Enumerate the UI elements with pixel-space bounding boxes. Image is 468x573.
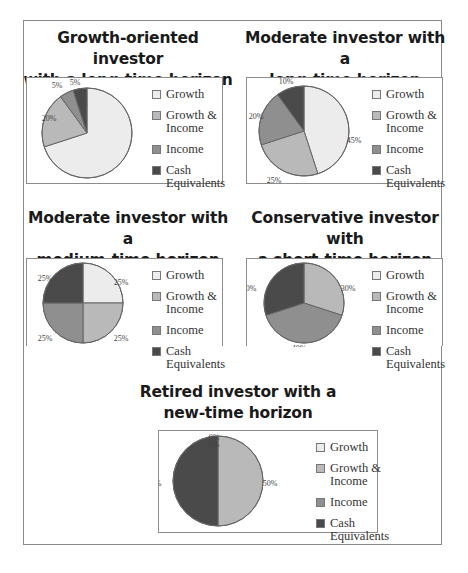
title-line-1: Retired investor with a: [133, 382, 343, 403]
legend-label: Growth: [166, 269, 225, 282]
legend-swatch: [152, 90, 161, 99]
legend-label: Equivalents: [330, 530, 389, 543]
title-line-1: Moderate investor with a: [240, 28, 450, 70]
legend-swatch: [372, 166, 381, 175]
legend-label: Equivalents: [386, 358, 445, 371]
legend-income: Income: [372, 324, 445, 337]
legend-growth: Growth: [372, 269, 445, 282]
legend-label: Income: [166, 143, 225, 156]
legend-label: Income: [386, 303, 445, 316]
legend-label: Income: [330, 475, 389, 488]
pie-chart-retired: 0%50%0%50% GrowthGrowth &IncomeIncomeCas…: [158, 430, 378, 533]
legend-swatch: [316, 464, 325, 473]
pie-label: 25%: [114, 334, 129, 343]
legend-label: Income: [386, 324, 445, 337]
chart-legend: GrowthGrowth &IncomeIncomeCashEquivalent…: [316, 441, 389, 551]
pie-slice-growth-income: [218, 436, 263, 526]
pie-label: 30%: [247, 284, 257, 293]
pie-label: 25%: [38, 274, 53, 283]
pie-slice-cash-equivalents: [43, 263, 83, 303]
legend-swatch: [152, 326, 161, 335]
legend-label: Income: [386, 143, 445, 156]
legend-swatch: [152, 292, 161, 301]
legend-label: Growth: [386, 269, 445, 282]
legend-growth-income: Growth &Income: [372, 290, 445, 316]
legend-label: Growth: [166, 88, 225, 101]
pie-label: 5%: [52, 81, 63, 90]
legend-label: Income: [166, 324, 225, 337]
legend-growth: Growth: [316, 441, 389, 454]
legend-swatch: [372, 326, 381, 335]
pie-label: 45%: [347, 136, 362, 145]
title-line-1: Conservative investor with: [240, 208, 450, 250]
pie-chart-moderate-long: 45%25%20%10% GrowthGrowth &IncomeIncomeC…: [246, 77, 443, 184]
pie-label: 50%: [263, 479, 278, 488]
legend-swatch: [152, 145, 161, 154]
legend-cash: CashEquivalents: [152, 164, 225, 190]
title-line-1: Growth-oriented investor: [23, 28, 233, 70]
chart-legend: GrowthGrowth &IncomeIncomeCashEquivalent…: [152, 88, 225, 198]
chart-legend: GrowthGrowth &IncomeIncomeCashEquivalent…: [372, 88, 445, 198]
pie-label: 25%: [38, 334, 53, 343]
legend-swatch: [372, 145, 381, 154]
legend-cash: CashEquivalents: [372, 345, 445, 371]
legend-cash: CashEquivalents: [372, 164, 445, 190]
legend-label: Income: [386, 122, 445, 135]
legend-swatch: [316, 443, 325, 452]
legend-label: Equivalents: [166, 177, 225, 190]
legend-swatch: [152, 271, 161, 280]
legend-swatch: [372, 292, 381, 301]
legend-swatch: [372, 111, 381, 120]
legend-growth: Growth: [152, 88, 225, 101]
pie-label: 0%: [294, 259, 305, 260]
legend-swatch: [372, 90, 381, 99]
pie-label: 20%: [249, 112, 264, 121]
pie-label: 50%: [159, 479, 162, 488]
legend-swatch: [152, 166, 161, 175]
legend-label: Income: [330, 496, 389, 509]
legend-cash: CashEquivalents: [152, 345, 225, 371]
legend-growth-income: Growth &Income: [152, 290, 225, 316]
legend-label: Growth: [330, 441, 389, 454]
legend-growth-income: Growth &Income: [152, 109, 225, 135]
legend-label: Growth: [386, 88, 445, 101]
legend-swatch: [372, 347, 381, 356]
legend-cash: CashEquivalents: [316, 517, 389, 543]
legend-income: Income: [316, 496, 389, 509]
legend-income: Income: [372, 143, 445, 156]
pie-chart-moderate-medium: 25%25%25%25% GrowthGrowth &IncomeIncomeC…: [26, 258, 223, 346]
legend-growth-income: Growth &Income: [372, 109, 445, 135]
legend-swatch: [316, 519, 325, 528]
pie-label: 25%: [114, 278, 129, 287]
legend-swatch: [152, 347, 161, 356]
legend-income: Income: [152, 143, 225, 156]
pie-slice-cash-equivalents: [173, 436, 218, 526]
legend-swatch: [316, 498, 325, 507]
legend-label: Equivalents: [386, 177, 445, 190]
title-line-2: new-time horizon: [133, 403, 343, 424]
pie-label: 5%: [70, 78, 81, 87]
pie-label: 0%: [209, 440, 220, 449]
legend-label: Equivalents: [166, 358, 225, 371]
legend-label: Income: [166, 303, 225, 316]
legend-growth: Growth: [372, 88, 445, 101]
pie-chart-conservative-short: 0%30%40%30% GrowthGrowth &IncomeIncomeCa…: [246, 258, 443, 346]
pie-label: 40%: [292, 344, 307, 347]
pie-chart-growth-oriented: 70%20%5%5% GrowthGrowth &IncomeIncomeCas…: [26, 77, 223, 184]
legend-swatch: [152, 111, 161, 120]
legend-label: Income: [166, 122, 225, 135]
title-line-1: Moderate investor with a: [23, 208, 233, 250]
pie-label: 25%: [267, 176, 282, 185]
pie-label: 30%: [341, 284, 356, 293]
legend-growth-income: Growth &Income: [316, 462, 389, 488]
pie-label: 20%: [42, 114, 57, 123]
legend-growth: Growth: [152, 269, 225, 282]
legend-income: Income: [152, 324, 225, 337]
chart-legend: GrowthGrowth &IncomeIncomeCashEquivalent…: [152, 269, 225, 379]
chart-legend: GrowthGrowth &IncomeIncomeCashEquivalent…: [372, 269, 445, 379]
pie-label: 10%: [279, 78, 294, 86]
panel-title-retired: Retired investor with a new-time horizon: [133, 382, 343, 424]
legend-swatch: [372, 271, 381, 280]
